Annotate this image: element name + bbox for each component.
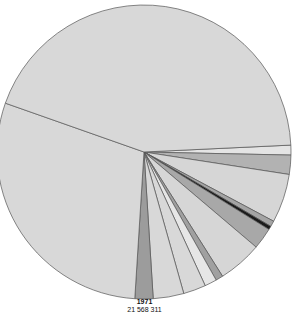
pie-chart: [0, 0, 295, 300]
chart-year-label: 1971: [2, 298, 287, 305]
chart-total-label: 21 568 311: [2, 306, 287, 313]
